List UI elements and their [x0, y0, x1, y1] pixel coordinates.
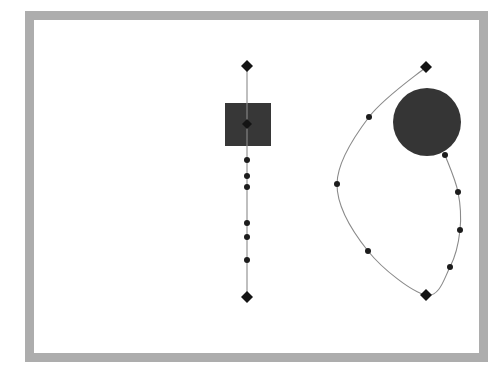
filled-circle	[393, 88, 461, 156]
vertical-path-node-diamond	[241, 60, 253, 72]
vertical-path-node-dot	[244, 173, 250, 179]
loop-path-node-dot	[365, 248, 371, 254]
vertical-path-node-dot	[244, 220, 250, 226]
loop-path-node-diamond	[420, 289, 432, 301]
loop-path-node-dot	[447, 264, 453, 270]
loop-path-node-dot	[442, 152, 448, 158]
vertical-path-node-dot	[244, 184, 250, 190]
loop-path-node-dot	[457, 227, 463, 233]
vertical-path-node-diamond	[241, 291, 253, 303]
vertical-path-node-dot	[244, 234, 250, 240]
loop-path-node-dot	[334, 181, 340, 187]
loop-path-node-diamond	[420, 61, 432, 73]
screenshot-canvas	[0, 0, 501, 380]
shapes-layer	[225, 88, 461, 156]
plot-area	[0, 0, 501, 380]
loop-path-node-dot	[455, 189, 461, 195]
loop-path-node-dot	[366, 114, 372, 120]
vertical-path-node-dot	[244, 257, 250, 263]
vertical-path-node-dot	[244, 157, 250, 163]
figure-svg	[0, 0, 501, 380]
